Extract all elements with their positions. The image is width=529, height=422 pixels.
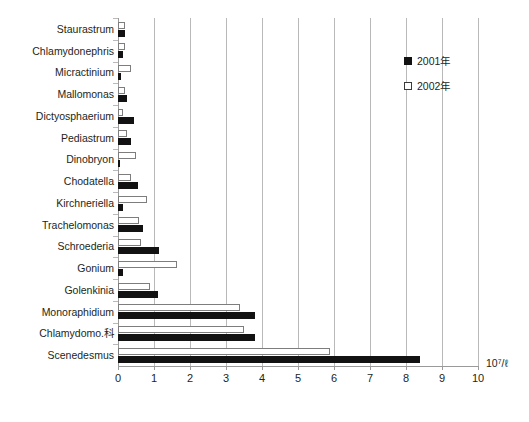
- x-axis-unit-text: 10⁷/ℓ: [486, 357, 508, 369]
- x-tick-label: 9: [427, 372, 457, 384]
- category-row: Kirchneriella: [0, 192, 529, 214]
- x-tick-7: [370, 366, 371, 370]
- y-axis-tick: [113, 127, 118, 128]
- y-axis-tick: [113, 214, 118, 215]
- category-label: Monoraphidium: [42, 306, 114, 318]
- x-tick-label: 7: [355, 372, 385, 384]
- category-label: Kirchneriella: [56, 197, 114, 209]
- bar-2001年: [118, 160, 120, 167]
- bar-2001年: [118, 138, 131, 145]
- bar-2002年: [118, 130, 127, 137]
- bar-2002年: [118, 217, 139, 224]
- category-row: Dinobryon: [0, 149, 529, 171]
- category-row: Pediastrum: [0, 127, 529, 149]
- x-tick-label: 5: [283, 372, 313, 384]
- category-label: Gonium: [77, 262, 114, 274]
- legend-item: 2002年: [404, 78, 450, 93]
- bar-2001年: [118, 225, 143, 232]
- bar-2001年: [118, 95, 127, 102]
- category-row: Scenedesmus: [0, 344, 529, 366]
- x-tick-label: 6: [319, 372, 349, 384]
- category-row: Monoraphidium: [0, 301, 529, 323]
- category-label: Dictyosphaerium: [36, 110, 114, 122]
- x-tick-6: [334, 366, 335, 370]
- y-axis-tick: [113, 323, 118, 324]
- bar-2001年: [118, 182, 138, 189]
- legend-label: 2002年: [417, 78, 450, 93]
- legend-item: 2001年: [404, 53, 450, 68]
- x-tick-label: 8: [391, 372, 421, 384]
- y-axis-tick: [113, 170, 118, 171]
- bar-2002年: [118, 326, 244, 333]
- bar-2001年: [118, 73, 121, 80]
- legend: 2001年2002年: [404, 53, 450, 103]
- category-label: Scenedesmus: [47, 349, 114, 361]
- x-tick-0: [118, 366, 119, 370]
- bar-2002年: [118, 43, 125, 50]
- y-axis-tick: [113, 257, 118, 258]
- y-axis-tick: [113, 192, 118, 193]
- bar-chart: StaurastrumChlamydonephrisMicractiniumMa…: [0, 0, 529, 422]
- bar-2001年: [118, 291, 158, 298]
- legend-swatch-open: [404, 82, 412, 90]
- bar-2002年: [118, 22, 125, 29]
- category-label: Mallomonas: [57, 88, 114, 100]
- y-axis-tick: [113, 149, 118, 150]
- bar-2001年: [118, 269, 123, 276]
- x-tick-4: [262, 366, 263, 370]
- category-row: Dictyosphaerium: [0, 105, 529, 127]
- bar-2001年: [118, 334, 255, 341]
- bar-2002年: [118, 196, 147, 203]
- category-label: Golenkinia: [64, 284, 114, 296]
- y-axis-tick: [113, 279, 118, 280]
- bar-2002年: [118, 348, 330, 355]
- category-label: Chodatella: [64, 175, 114, 187]
- bar-2002年: [118, 261, 177, 268]
- bar-2001年: [118, 30, 125, 37]
- x-tick-label: 0: [103, 372, 133, 384]
- x-tick-label: 10: [463, 372, 493, 384]
- x-tick-9: [442, 366, 443, 370]
- y-axis-tick: [113, 62, 118, 63]
- x-tick-label: 3: [211, 372, 241, 384]
- y-axis-tick: [113, 236, 118, 237]
- bar-2001年: [118, 312, 255, 319]
- y-axis-tick: [113, 18, 118, 19]
- x-tick-3: [226, 366, 227, 370]
- category-row: Chodatella: [0, 170, 529, 192]
- x-tick-10: [478, 366, 479, 370]
- x-tick-label: 4: [247, 372, 277, 384]
- y-axis-tick: [113, 344, 118, 345]
- bar-2001年: [118, 247, 159, 254]
- x-tick-1: [154, 366, 155, 370]
- bar-2002年: [118, 87, 125, 94]
- category-row: Golenkinia: [0, 279, 529, 301]
- bar-2002年: [118, 65, 131, 72]
- legend-swatch-filled: [404, 57, 412, 65]
- bar-2002年: [118, 152, 136, 159]
- category-label: Chlamydomo.科: [39, 327, 114, 339]
- bar-2001年: [118, 204, 123, 211]
- category-label: Dinobryon: [66, 153, 114, 165]
- bar-2002年: [118, 174, 131, 181]
- x-tick-8: [406, 366, 407, 370]
- category-row: Chlamydomo.科: [0, 323, 529, 345]
- y-axis-tick: [113, 83, 118, 84]
- category-row: Gonium: [0, 257, 529, 279]
- category-row: Trachelomonas: [0, 214, 529, 236]
- category-label: Chlamydonephris: [32, 45, 114, 57]
- category-label: Micractinium: [55, 66, 114, 78]
- category-label: Schroederia: [57, 240, 114, 252]
- bar-2002年: [118, 304, 240, 311]
- bar-2002年: [118, 109, 123, 116]
- y-axis-tick: [113, 40, 118, 41]
- x-tick-label: 2: [175, 372, 205, 384]
- y-axis-tick: [113, 301, 118, 302]
- bar-2001年: [118, 117, 134, 124]
- category-label: Trachelomonas: [42, 219, 114, 231]
- x-tick-5: [298, 366, 299, 370]
- bar-2002年: [118, 283, 150, 290]
- y-axis-tick: [113, 105, 118, 106]
- x-tick-label: 1: [139, 372, 169, 384]
- bar-2001年: [118, 356, 420, 363]
